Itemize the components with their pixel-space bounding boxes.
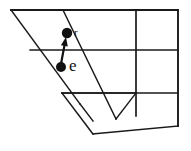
point-label-r: r bbox=[74, 27, 77, 38]
arrow-head bbox=[61, 37, 68, 46]
geometry-strokes bbox=[11, 10, 178, 134]
diagonal-notch bbox=[116, 93, 136, 119]
point-label-e: e bbox=[69, 57, 77, 74]
arrow-shaft bbox=[61, 44, 65, 64]
lower-left-edge bbox=[62, 93, 93, 134]
point-r bbox=[62, 28, 72, 38]
figure-canvas: r e bbox=[0, 0, 191, 151]
point-e bbox=[56, 62, 66, 72]
line-drawing-svg bbox=[0, 0, 191, 151]
bottom-edge bbox=[93, 126, 178, 134]
